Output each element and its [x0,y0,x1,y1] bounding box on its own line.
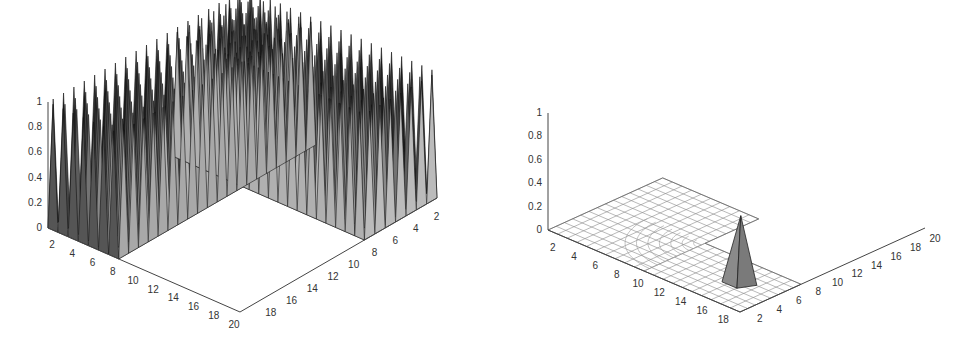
contour-arc [648,226,666,262]
contour-arc [694,240,698,247]
x-tick-label: 18 [208,310,220,321]
y-tick-label: 18 [265,307,277,318]
z-tick-label: 1 [36,96,42,107]
right-mesh-plot: 00.20.40.60.8124681012141618246810121416… [528,107,941,325]
z-tick-label: 1 [536,107,542,118]
z-tick-label: 0.2 [528,201,542,212]
y-tick-label: 4 [413,223,419,234]
z-tick-label: 0 [36,222,42,233]
x-tick-label: 8 [614,269,620,280]
right-axes: 00.20.40.60.8124681012141618246810121416… [528,107,941,325]
y-tick-label: 4 [776,304,782,315]
x-tick-label: 20 [228,319,240,330]
left-surface-plot: 00.20.40.60.8124681012141618201816141210… [28,0,440,330]
x-tick-label: 10 [632,278,644,289]
mesh-line [675,257,771,298]
z-tick-label: 0.4 [28,172,42,183]
x-tick-label: 14 [168,292,180,303]
x-tick-label: 12 [654,287,666,298]
y-tick-label: 2 [757,313,763,324]
x-tick-label: 8 [110,266,116,277]
figure: 00.20.40.60.8124681012141618201816141210… [0,0,961,340]
y-tick-label: 6 [392,235,398,246]
x-tick-label: 2 [550,242,556,253]
z-tick-label: 0.2 [28,197,42,208]
y-tick-label: 2 [434,211,440,222]
y-tick-label: 8 [372,247,378,258]
peak-face [737,216,757,289]
mesh-grid [548,178,801,312]
x-tick-label: 12 [148,284,160,295]
spike-side [48,104,58,232]
y-tick-label: 14 [307,283,319,294]
y-tick-label: 16 [890,251,902,262]
z-tick-label: 0.6 [528,154,542,165]
x-tick-label: 6 [90,257,96,268]
z-tick-label: 0 [536,224,542,235]
z-tick-label: 0.8 [528,130,542,141]
y-tick-label: 10 [832,277,844,288]
y-tick-label: 16 [286,295,298,306]
z-tick-label: 0.4 [528,177,542,188]
z-tick-label: 0.6 [28,146,42,157]
y-tick-label: 6 [796,295,802,306]
x-tick-label: 18 [718,314,730,325]
y-tick-label: 18 [910,242,922,253]
x-tick-label: 16 [188,301,200,312]
y-tick-label: 8 [815,286,821,297]
y-tick-label: 14 [871,260,883,271]
x-tick-label: 14 [675,296,687,307]
peak-pyramid [722,216,757,289]
x-tick-label: 4 [70,248,76,259]
x-tick-label: 4 [571,251,577,262]
y-tick-label: 20 [929,233,941,244]
x-tick-label: 10 [127,275,139,286]
x-tick-label: 16 [696,305,708,316]
z-tick-label: 0.8 [28,121,42,132]
spike-side [427,75,437,204]
x-tick-label: 6 [593,260,599,271]
y-tick-label: 12 [852,268,864,279]
y-tick-label: 12 [327,271,339,282]
y-tick-label: 10 [348,259,360,270]
x-tick-label: 2 [49,239,55,250]
